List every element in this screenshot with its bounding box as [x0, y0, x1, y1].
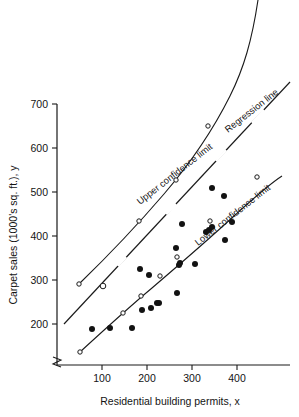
- x-tick-labels: 100 200 300 400: [93, 372, 246, 384]
- band-marker: [121, 311, 125, 315]
- band-marker: [208, 219, 212, 223]
- scatter-plot-svg: 700 600 500 400 300 200 100 200 300 400 …: [0, 0, 299, 417]
- regression-line-gap: [216, 150, 226, 161]
- y-tick-marks: [52, 104, 57, 324]
- y-tick-label: 200: [30, 318, 48, 330]
- data-point: [156, 300, 162, 306]
- data-point: [177, 260, 183, 266]
- data-point: [107, 325, 113, 331]
- band-marker: [175, 255, 179, 259]
- band-marker: [255, 175, 259, 179]
- y-tick-labels: 700 600 500 400 300 200: [30, 98, 48, 330]
- y-axis-title: Carpet sales (1000's sq. ft.), y: [7, 165, 19, 305]
- y-tick-label: 300: [30, 274, 48, 286]
- upper-confidence-label: Upper confidence limit: [134, 141, 214, 207]
- data-point: [192, 261, 198, 267]
- data-point: [146, 272, 152, 278]
- upper-band-markers: [77, 124, 210, 286]
- x-tick-label: 200: [138, 372, 156, 384]
- upper-confidence-curve: [79, 0, 258, 284]
- data-point: [221, 193, 227, 199]
- x-axis-title: Residential building permits, x: [100, 395, 240, 407]
- band-marker: [139, 294, 143, 298]
- data-point: [129, 325, 135, 331]
- band-marker: [158, 274, 162, 278]
- chart-figure: 700 600 500 400 300 200 100 200 300 400 …: [0, 0, 299, 417]
- band-marker: [77, 282, 81, 286]
- x-tick-marks: [102, 365, 237, 370]
- y-tick-label: 400: [30, 230, 48, 242]
- data-point: [179, 221, 185, 227]
- band-marker: [137, 219, 141, 223]
- x-tick-label: 100: [93, 372, 111, 384]
- data-point: [209, 185, 215, 191]
- data-points-group: [89, 185, 235, 332]
- axis-lines: [57, 104, 290, 365]
- regression-line-gap: [118, 257, 126, 266]
- axes-group: [52, 104, 290, 370]
- lower-band-markers: [78, 175, 259, 354]
- data-point: [139, 307, 145, 313]
- outlier-open-marker: [100, 283, 106, 289]
- x-tick-label: 300: [183, 372, 201, 384]
- band-marker: [78, 350, 82, 354]
- y-tick-label: 500: [30, 186, 48, 198]
- regression-line-gap: [166, 204, 176, 214]
- data-point: [222, 237, 228, 243]
- data-point: [173, 245, 179, 251]
- y-tick-label: 600: [30, 142, 48, 154]
- lower-confidence-label: Lower confidence limit: [192, 182, 272, 248]
- data-point: [148, 305, 154, 311]
- data-point: [89, 326, 95, 332]
- band-marker: [206, 124, 210, 128]
- data-point: [137, 266, 143, 272]
- x-tick-label: 400: [228, 372, 246, 384]
- y-tick-label: 700: [30, 98, 48, 110]
- data-point: [174, 290, 180, 296]
